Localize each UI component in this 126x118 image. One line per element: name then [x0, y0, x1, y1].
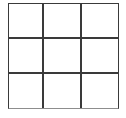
grid-cell[interactable]	[82, 39, 118, 72]
grid-cell[interactable]	[82, 4, 118, 37]
grid-cell[interactable]	[82, 74, 118, 108]
grid-cell[interactable]	[9, 39, 42, 72]
grid-cell[interactable]	[9, 4, 42, 37]
grid-cell[interactable]	[44, 39, 80, 72]
canvas	[0, 0, 126, 118]
grid-cell[interactable]	[44, 74, 80, 108]
grid-3x3	[8, 3, 119, 109]
grid-cell[interactable]	[44, 4, 80, 37]
grid-cell[interactable]	[9, 74, 42, 108]
